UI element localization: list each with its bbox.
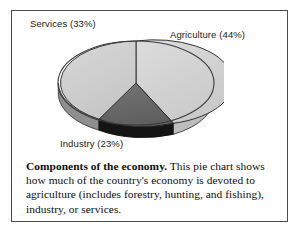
figure-caption: Components of the economy. This pie char… xyxy=(26,159,276,216)
pie-label-services: Services (33%) xyxy=(30,18,96,29)
pie-chart: Services (33%) Agriculture (44%) Industr… xyxy=(12,11,289,151)
pie-label-industry: Industry (23%) xyxy=(60,138,123,149)
figure-root: Services (33%) Agriculture (44%) Industr… xyxy=(0,0,301,246)
figure-frame: Services (33%) Agriculture (44%) Industr… xyxy=(11,10,288,222)
caption-title: Components of the economy. xyxy=(26,160,167,172)
pie-label-agriculture: Agriculture (44%) xyxy=(170,29,245,40)
